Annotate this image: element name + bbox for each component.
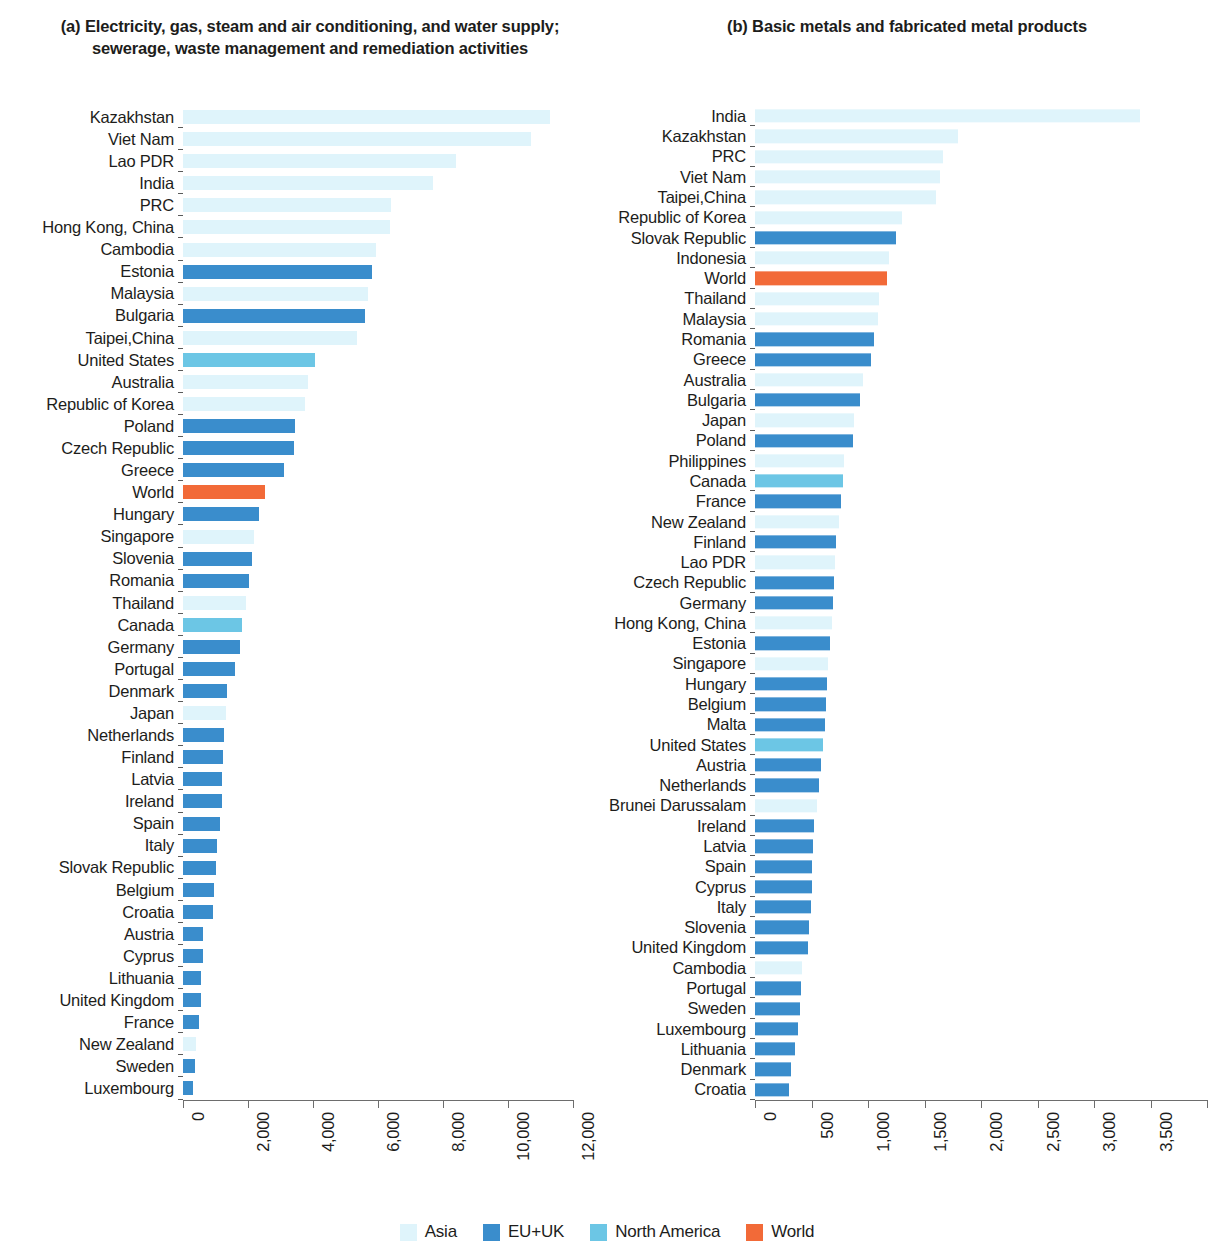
category-label: Taipei,China xyxy=(0,189,755,206)
bar-row: Spain xyxy=(0,856,1214,876)
x-axis-tick-label: 1,000 xyxy=(874,1112,893,1152)
legend-label: World xyxy=(771,1222,814,1242)
bar xyxy=(755,637,830,650)
bar-track xyxy=(755,613,1214,633)
bar-row: Estonia xyxy=(0,633,1214,653)
bar-row: Portugal xyxy=(0,978,1214,998)
bar-row: Singapore xyxy=(0,654,1214,674)
category-label: Germany xyxy=(0,595,755,612)
bar xyxy=(755,556,835,569)
category-label: Latvia xyxy=(0,838,755,855)
x-axis-tick-label: 0 xyxy=(189,1112,208,1121)
category-label: Lao PDR xyxy=(0,554,755,571)
x-axis-tick-label: 4,000 xyxy=(319,1112,338,1152)
bar-row: Lao PDR xyxy=(0,552,1214,572)
bar-row: Brunei Darussalam xyxy=(0,796,1214,816)
legend-label: Asia xyxy=(425,1222,457,1242)
bar xyxy=(755,982,801,995)
bar xyxy=(755,718,825,731)
bar-track xyxy=(755,207,1214,227)
bar xyxy=(755,211,902,224)
category-label: Romania xyxy=(0,331,755,348)
panel-b-x-axis: 05001,0001,5002,0002,5003,0003,5004,000 xyxy=(755,1100,1207,1190)
bar-row: Canada xyxy=(0,471,1214,491)
category-label: Netherlands xyxy=(0,777,755,794)
x-axis-tick xyxy=(981,1100,982,1108)
bar-row: PRC xyxy=(0,147,1214,167)
category-label: Hungary xyxy=(0,676,755,693)
bar-row: India xyxy=(0,106,1214,126)
bar-track xyxy=(755,410,1214,430)
category-label: Estonia xyxy=(0,635,755,652)
x-axis-tick xyxy=(1038,1100,1039,1108)
bar-row: France xyxy=(0,491,1214,511)
bar xyxy=(755,434,853,447)
bar-track xyxy=(755,714,1214,734)
bar-row: Latvia xyxy=(0,836,1214,856)
bar-row: Slovenia xyxy=(0,917,1214,937)
bar-row: Indonesia xyxy=(0,248,1214,268)
bar-track xyxy=(755,938,1214,958)
category-label: Republic of Korea xyxy=(0,209,755,226)
bar-row: Netherlands xyxy=(0,775,1214,795)
category-label: Cyprus xyxy=(0,879,755,896)
bar xyxy=(755,840,813,853)
bar-row: Lithuania xyxy=(0,1039,1214,1059)
bar xyxy=(755,921,809,934)
legend-item: Asia xyxy=(400,1222,457,1242)
bar-row: Italy xyxy=(0,897,1214,917)
x-axis-tick xyxy=(248,1100,249,1108)
bar xyxy=(755,1083,789,1096)
bar xyxy=(755,961,802,974)
bar xyxy=(755,617,832,630)
bar-track xyxy=(755,755,1214,775)
bar-row: New Zealand xyxy=(0,512,1214,532)
bar-track xyxy=(755,593,1214,613)
bar-track xyxy=(755,431,1214,451)
x-axis-tick xyxy=(183,1100,184,1108)
category-label: Singapore xyxy=(0,655,755,672)
category-label: United Kingdom xyxy=(0,939,755,956)
legend-label: EU+UK xyxy=(508,1222,564,1242)
bar-row: Finland xyxy=(0,532,1214,552)
bar-track xyxy=(755,187,1214,207)
bar-track xyxy=(755,674,1214,694)
bar-track xyxy=(755,390,1214,410)
category-label: Croatia xyxy=(0,1081,755,1098)
bar-row: Kazakhstan xyxy=(0,126,1214,146)
bar-row: Cyprus xyxy=(0,877,1214,897)
category-label: Luxembourg xyxy=(0,1021,755,1038)
bar-track xyxy=(755,633,1214,653)
category-label: Australia xyxy=(0,372,755,389)
bar-track xyxy=(755,248,1214,268)
bar-track xyxy=(755,106,1214,126)
bar-track xyxy=(755,228,1214,248)
category-label: Bulgaria xyxy=(0,392,755,409)
bar xyxy=(755,495,841,508)
category-label: Canada xyxy=(0,473,755,490)
bar xyxy=(755,759,821,772)
category-label: France xyxy=(0,493,755,510)
bar xyxy=(755,475,843,488)
bar-track xyxy=(755,1039,1214,1059)
bar xyxy=(755,779,819,792)
bar xyxy=(755,738,823,751)
bar xyxy=(755,1022,798,1035)
x-axis-tick-label: 3,500 xyxy=(1157,1112,1176,1152)
bar xyxy=(755,535,836,548)
bar xyxy=(755,231,896,244)
category-label: Slovak Republic xyxy=(0,230,755,247)
category-label: United States xyxy=(0,737,755,754)
bar xyxy=(755,312,878,325)
category-label: Sweden xyxy=(0,1000,755,1017)
bar xyxy=(755,454,844,467)
x-axis-tick-label: 3,000 xyxy=(1100,1112,1119,1152)
x-axis-tick xyxy=(508,1100,509,1108)
category-label: Malaysia xyxy=(0,311,755,328)
bar-row: Greece xyxy=(0,349,1214,369)
bar-row: Poland xyxy=(0,431,1214,451)
bar-track xyxy=(755,1059,1214,1079)
bar xyxy=(755,373,863,386)
bar-row: United States xyxy=(0,735,1214,755)
x-axis-tick xyxy=(925,1100,926,1108)
